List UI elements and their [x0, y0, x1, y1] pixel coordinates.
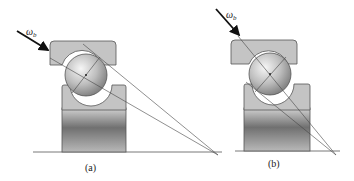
housing-a	[62, 108, 126, 152]
caption-a: (a)	[85, 162, 96, 174]
ball-center-a	[85, 74, 87, 76]
load-label-b: ωb	[226, 9, 237, 22]
housing-b	[244, 108, 310, 151]
bearing-diagram: ωb (a) ωb (b)	[0, 0, 354, 181]
caption-b: (b)	[268, 158, 280, 170]
panel-b: ωb (b)	[216, 9, 340, 170]
ball-center-b	[269, 73, 271, 75]
panel-a: ωb (a)	[17, 26, 222, 174]
